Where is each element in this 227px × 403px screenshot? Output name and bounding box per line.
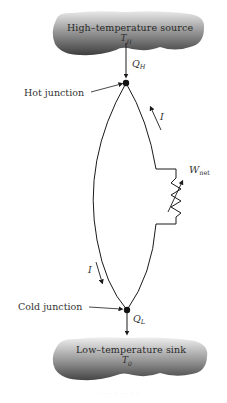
cold-junction-leader — [89, 307, 121, 309]
cold-junction-label: Cold junction — [18, 301, 82, 312]
right-leg-lower-wire — [127, 224, 156, 310]
heat-out-sub: L — [141, 318, 145, 326]
right-leg-upper-wire — [126, 83, 156, 169]
heat-in-sub: H — [140, 63, 146, 71]
heat-in-label: QH — [132, 58, 145, 71]
heat-out-symbol: Q — [133, 313, 141, 324]
cold-junction-dot — [124, 307, 130, 313]
current-label-top: I — [160, 111, 164, 122]
thermoelectric-diagram — [0, 0, 227, 403]
current-arrow-bottom — [96, 262, 102, 282]
heat-out-label: QL — [133, 313, 145, 326]
load-wire-bottom — [156, 217, 176, 224]
sink-temp-sub: 0 — [128, 360, 132, 367]
source-label: High–temperature source — [56, 22, 204, 33]
work-sub: net — [199, 169, 210, 177]
load-wire-top — [156, 169, 176, 178]
sink-label: Low–temperature sink — [56, 344, 206, 355]
hot-junction-leader — [91, 84, 121, 92]
variable-resistor-arrow — [168, 182, 182, 212]
hot-junction-label: Hot junction — [24, 87, 84, 98]
work-label: Wnet — [189, 164, 210, 177]
left-leg-wire — [93, 83, 127, 310]
source-temperature: TH — [116, 33, 136, 45]
heat-in-symbol: Q — [132, 58, 140, 69]
footer-watermark: · · · · · · · · — [100, 390, 139, 396]
current-label-bottom: I — [88, 264, 92, 275]
source-temp-sub: H — [126, 38, 131, 45]
load-resistor — [171, 178, 181, 217]
sink-temperature: T0 — [117, 355, 137, 367]
work-symbol: W — [189, 164, 199, 175]
